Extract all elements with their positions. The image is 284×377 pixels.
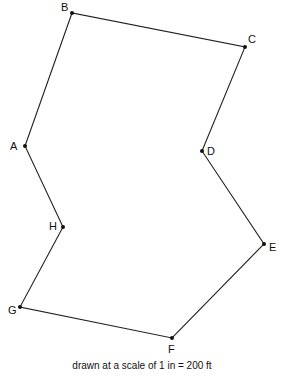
vertex-dot-c	[243, 45, 247, 49]
vertex-label-h: H	[49, 220, 57, 232]
vertex-label-d: D	[207, 145, 215, 157]
vertex-label-f: F	[168, 343, 175, 355]
vertex-label-c: C	[248, 33, 256, 45]
vertex-dot-b	[70, 11, 74, 15]
vertex-labels: ABCDEFGH	[8, 1, 276, 355]
vertex-dot-a	[23, 144, 27, 148]
vertex-dot-f	[170, 336, 174, 340]
vertex-label-g: G	[8, 304, 17, 316]
vertex-label-b: B	[61, 1, 68, 13]
vertex-dot-d	[200, 149, 204, 153]
vertex-dot-g	[18, 305, 22, 309]
survey-polygon-diagram: ABCDEFGH	[0, 0, 284, 377]
vertex-dot-e	[262, 242, 266, 246]
traverse-outline	[20, 13, 264, 338]
vertex-label-a: A	[10, 140, 18, 152]
scale-caption: drawn at a scale of 1 in = 200 ft	[0, 360, 284, 371]
vertex-dot-h	[61, 225, 65, 229]
vertex-label-e: E	[269, 241, 276, 253]
